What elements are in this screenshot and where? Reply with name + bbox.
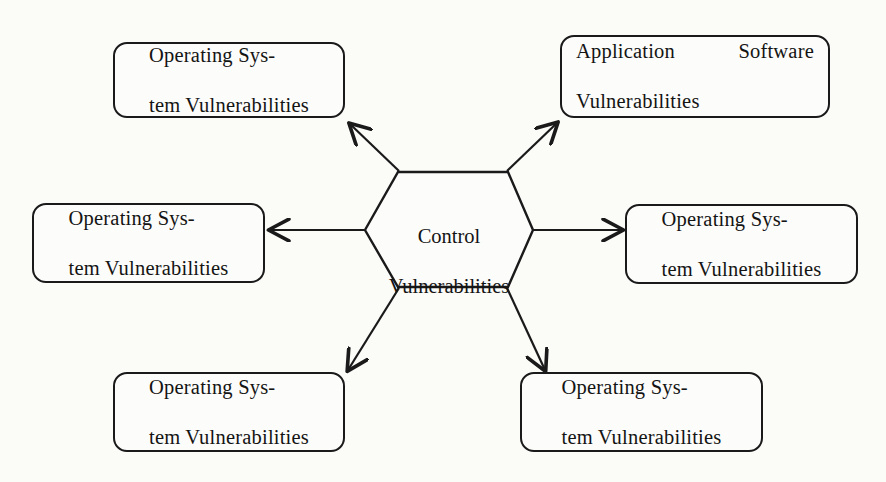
node-top-left-line-2: tem Vulnerabilities [149, 93, 309, 118]
diagram-canvas: Control Vulnerabilities Operating Sys- t… [0, 0, 886, 482]
node-bottom-right-label: Operating Sys- tem Vulnerabilities [552, 350, 732, 475]
node-right-line-2: tem Vulnerabilities [662, 257, 822, 282]
node-right-line-1: Operating Sys- [662, 207, 822, 232]
node-left-line-2: tem Vulnerabilities [69, 256, 229, 281]
connector-hub-to-top-right [507, 123, 557, 171]
node-bottom-right-line-2: tem Vulnerabilities [562, 425, 722, 450]
node-bottom-right-line-1: Operating Sys- [562, 375, 722, 400]
node-top-right-line-2: Vulnerabilities [576, 89, 814, 114]
node-left-line-1: Operating Sys- [69, 206, 229, 231]
node-bottom-left-line-2: tem Vulnerabilities [149, 425, 309, 450]
node-bottom-left-label: Operating Sys- tem Vulnerabilities [139, 350, 319, 475]
node-top-right-line-1: Application Software [576, 39, 814, 64]
node-top-right[interactable]: Application Software Vulnerabilities [560, 35, 830, 118]
hub-hexagon [365, 172, 533, 287]
node-bottom-left[interactable]: Operating Sys- tem Vulnerabilities [113, 372, 345, 452]
node-right-label: Operating Sys- tem Vulnerabilities [652, 182, 832, 307]
node-bottom-right[interactable]: Operating Sys- tem Vulnerabilities [520, 372, 763, 452]
connector-hub-to-bottom-left [348, 288, 399, 370]
connector-hub-to-top-left [350, 124, 399, 171]
connector-hub-to-bottom-right [507, 288, 545, 370]
node-right[interactable]: Operating Sys- tem Vulnerabilities [625, 204, 858, 284]
node-top-left[interactable]: Operating Sys- tem Vulnerabilities [113, 42, 345, 118]
node-left[interactable]: Operating Sys- tem Vulnerabilities [32, 203, 265, 283]
node-top-right-label: Application Software Vulnerabilities [562, 14, 828, 139]
node-left-label: Operating Sys- tem Vulnerabilities [59, 181, 239, 306]
node-bottom-left-line-1: Operating Sys- [149, 375, 309, 400]
node-top-left-line-1: Operating Sys- [149, 43, 309, 68]
node-top-left-label: Operating Sys- tem Vulnerabilities [139, 18, 319, 143]
